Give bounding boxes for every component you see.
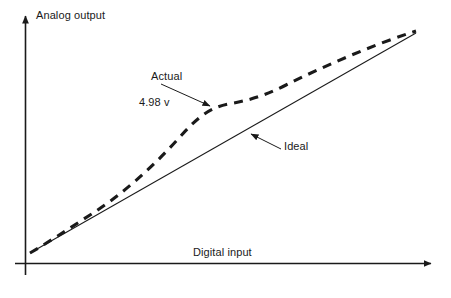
- ideal-line: [30, 33, 416, 253]
- ideal-annotation-label: Ideal: [284, 140, 308, 153]
- dac-transfer-curve-figure: Analog output Digital input Actual 4.98 …: [0, 0, 451, 298]
- actual-label-line2: 4.98 v: [139, 96, 182, 109]
- ideal-annotation-arrow: [251, 134, 281, 149]
- actual-label-line1: Actual: [151, 70, 182, 82]
- actual-annotation-label: Actual 4.98 v: [139, 57, 182, 135]
- y-axis-title: Analog output: [36, 9, 105, 22]
- x-axis-title: Digital input: [193, 246, 252, 259]
